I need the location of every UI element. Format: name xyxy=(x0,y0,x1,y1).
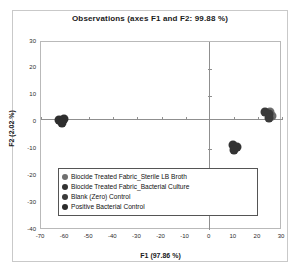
legend-item-label: Biocide Treated Fabric_Bacterial Culture xyxy=(71,182,189,192)
y-axis-title: F2 (2.02 %) xyxy=(8,99,15,159)
x-tick-10 xyxy=(234,117,235,120)
x-tick-label--50: -50 xyxy=(78,233,98,239)
x-tick--20 xyxy=(162,117,163,120)
y-tick-label-10: 10 xyxy=(20,91,36,97)
legend-item-label: Blank (Zero) Control xyxy=(71,192,130,202)
y-tick-label--30: -30 xyxy=(20,199,36,205)
x-tick-30 xyxy=(282,117,283,120)
y-tick-20 xyxy=(208,69,212,70)
x-tick--40 xyxy=(113,117,114,120)
x-tick-label--70: -70 xyxy=(30,233,50,239)
legend-marker-icon xyxy=(62,174,68,180)
legend-marker-icon xyxy=(62,184,68,190)
x-tick-label-20: 20 xyxy=(247,233,267,239)
x-tick-label--10: -10 xyxy=(175,233,195,239)
x-tick-label-0: 0 xyxy=(199,233,219,239)
legend-item-label: Biocide Treated Fabric_Sterile LB Broth xyxy=(71,172,187,182)
data-point xyxy=(265,114,274,123)
y-tick-label-20: 20 xyxy=(20,64,36,70)
legend-item[interactable]: Blank (Zero) Control xyxy=(62,192,253,202)
x-tick-label--30: -30 xyxy=(126,233,146,239)
y-tick--10 xyxy=(208,149,212,150)
x-axis-title: F1 (97.86 %) xyxy=(40,252,281,259)
legend-item-label: Positive Bacterial Control xyxy=(71,202,145,212)
y-tick-label--10: -10 xyxy=(20,145,36,151)
legend-marker-icon xyxy=(62,204,68,210)
legend-marker-icon xyxy=(62,194,68,200)
x-tick-label--60: -60 xyxy=(54,233,74,239)
legend-item[interactable]: Biocide Treated Fabric_Bacterial Culture xyxy=(62,182,253,192)
data-point xyxy=(57,119,66,128)
x-tick-label-30: 30 xyxy=(271,233,291,239)
x-tick--50 xyxy=(89,117,90,120)
x-tick--10 xyxy=(186,117,187,120)
data-point xyxy=(230,145,239,154)
y-tick-label-0: 0 xyxy=(20,118,36,124)
y-tick-label--40: -40 xyxy=(20,226,36,232)
x-tick-label-10: 10 xyxy=(223,233,243,239)
x-tick--70 xyxy=(41,117,42,120)
x-tick-20 xyxy=(258,117,259,120)
legend-item[interactable]: Positive Bacterial Control xyxy=(62,202,253,212)
chart-legend: Biocide Treated Fabric_Sterile LB BrothB… xyxy=(58,168,258,216)
y-tick-10 xyxy=(208,96,212,97)
chart-title: Observations (axes F1 and F2: 99.88 %) xyxy=(0,14,300,23)
x-tick-label--40: -40 xyxy=(102,233,122,239)
x-tick-label--20: -20 xyxy=(151,233,171,239)
x-tick--30 xyxy=(137,117,138,120)
y-tick-label-30: 30 xyxy=(20,38,36,44)
y-tick-label--20: -20 xyxy=(20,172,36,178)
legend-item[interactable]: Biocide Treated Fabric_Sterile LB Broth xyxy=(62,172,253,182)
